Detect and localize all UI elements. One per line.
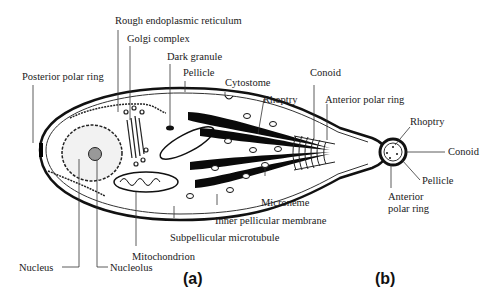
label-cytostome: Cytostome	[225, 77, 271, 89]
label-b-anterior: Anterior	[388, 191, 424, 203]
label-nucleolus: Nucleolus	[110, 262, 153, 274]
label-b-polar-ring: polar ring	[388, 203, 429, 215]
label-b-pellicle: Pellicle	[422, 175, 454, 187]
label-b-conoid: Conoid	[448, 146, 479, 158]
panel-label-b: (b)	[375, 270, 395, 288]
apicomplexan-diagram	[0, 0, 492, 299]
label-pellicle: Pellicle	[183, 67, 215, 79]
label-posterior-polar-ring: Posterior polar ring	[22, 71, 104, 83]
label-rhoptry: Rhoptry	[263, 94, 297, 106]
panel-label-a: (a)	[183, 270, 203, 288]
label-rough-er: Rough endoplasmic reticulum	[115, 15, 242, 27]
label-b-rhoptry: Rhoptry	[410, 116, 444, 128]
label-golgi: Golgi complex	[127, 33, 190, 45]
label-dark-granule: Dark granule	[167, 51, 222, 63]
nucleus	[62, 125, 122, 181]
label-microneme: Microneme	[261, 197, 309, 209]
label-subpellicular-microtubule: Subpellicular microtubule	[170, 232, 279, 244]
label-anterior-polar-ring: Anterior polar ring	[325, 94, 404, 106]
dark-granule	[166, 126, 174, 131]
label-conoid: Conoid	[310, 67, 341, 79]
label-inner-pellicular-membrane: Inner pellicular membrane	[215, 215, 326, 227]
label-nucleus: Nucleus	[19, 262, 53, 274]
